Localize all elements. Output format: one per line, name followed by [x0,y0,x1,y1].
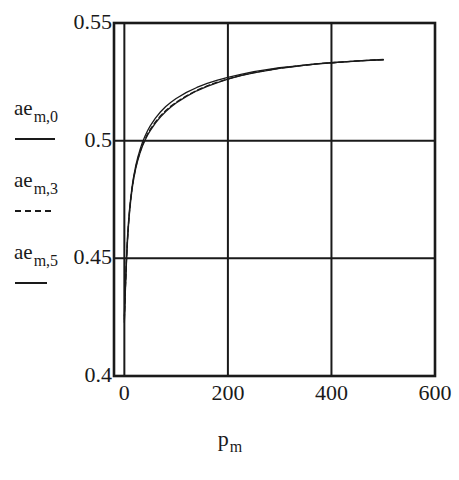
plot-frame [114,23,435,376]
data-series-2 [124,60,383,320]
caption-fragment [28,470,248,480]
data-series-3 [124,59,383,322]
figure-chart: aem,0 aem,3 aem,5 0.40.450.50.55 0200400… [0,0,459,480]
data-series-1 [124,60,383,316]
plot-area [0,0,459,480]
x-axis-title-base: p [218,426,229,451]
x-axis-title: pm [0,428,459,450]
x-axis-title-subscript: m [230,438,242,455]
